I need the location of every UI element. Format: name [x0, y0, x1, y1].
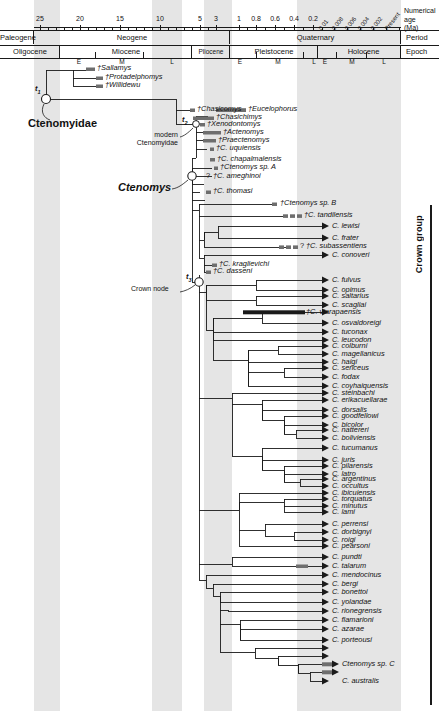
leader-ctenomys-genus [172, 180, 188, 189]
range-bar-subassentiens-2 [286, 245, 291, 249]
range-bar-dasseni [206, 271, 211, 275]
node-label-t2: t2 [182, 115, 188, 126]
tip-label: Ctenomys sp. C [342, 660, 395, 668]
axis-tick-label: 3 [207, 15, 225, 23]
range-bar-chasicomys [190, 109, 195, 113]
taxon-label-ctenomys-sp-a: †Ctenomys sp. A [220, 163, 276, 171]
subepoch-pleistocene-l: L [309, 55, 319, 68]
node-marker-t1 [42, 95, 51, 104]
range-bar-uquiensis [210, 148, 214, 152]
tip-label: C. erikacuellarae [332, 396, 387, 404]
range-bar-subassentiens-3 [293, 245, 298, 249]
tip-label: C. saltarius [332, 292, 369, 300]
tip-label: C. tucumanus [332, 444, 378, 452]
subepoch-divider [256, 52, 257, 59]
subepoch-divider [366, 52, 367, 59]
range-bar-thomasi [206, 191, 211, 195]
subepoch-divider [303, 52, 304, 59]
time-scale-header: Numerical age (Ma) 25 20 15 10 5 3 1 0.8… [0, 0, 439, 57]
figure-root: Numerical age (Ma) 25 20 15 10 5 3 1 0.8… [0, 0, 439, 711]
node-label-t1: t1 [35, 84, 41, 95]
axis-tick-label: 20 [71, 15, 89, 23]
epoch-label: Pliocene [192, 45, 230, 58]
modern-ctenomyidae-label: modern Ctenomyidae [132, 131, 178, 147]
tip-label: C. boliviensis [332, 434, 376, 442]
range-bar-xenodontomys [200, 123, 205, 127]
taxon-label-dasseni: †C. dasseni [213, 267, 252, 275]
period-row-label: Period [406, 31, 428, 44]
node-marker-ctenomys [188, 172, 196, 180]
subepoch-pleistocene-e: E [234, 55, 246, 68]
range-bar-subassentiens [279, 245, 284, 249]
period-label: Quaternary [230, 31, 401, 44]
axis-tick-label: 10 [151, 15, 169, 23]
tip-label: C. sericeus [332, 364, 369, 372]
period-label: Neogene [34, 31, 230, 44]
range-bar-ctenomys-sp-b [272, 203, 277, 207]
tip-label: C. osvaldoreigi [332, 319, 381, 327]
axis-caption: Numerical age (Ma) [404, 7, 439, 33]
taxon-label-willidewu: †Willidewu [105, 81, 140, 89]
tip-label: C. fulvus [332, 276, 361, 284]
taxon-label-ctenomys-sp-b: †Ctenomys sp. B [280, 199, 336, 207]
tip-label: C. conoveri [332, 251, 369, 259]
node-marker-t3-crown [195, 278, 203, 286]
taxon-label-sallamys: †Sallamys [97, 64, 131, 72]
tip-label: C. rionegrensis [332, 607, 382, 615]
axis-tick-label: 0.4 [284, 15, 304, 23]
range-bar-spc [322, 662, 332, 666]
taxon-query-ameghinoi: ? [206, 172, 210, 180]
tip-label: C. lami [332, 508, 355, 516]
tip-label: C. fodax [332, 373, 360, 381]
range-bar-sallamys [86, 68, 95, 72]
tip-label: C. flamarioni [332, 616, 373, 624]
subepoch-holocene-m: M [346, 55, 358, 68]
genus-label-ctenomys: Ctenomys [118, 183, 171, 191]
subepoch-holocene-e: E [320, 55, 330, 68]
range-bar-willidewu [96, 85, 103, 89]
leader-modern-ctenomyidae [180, 128, 193, 137]
axis-tick-label: 0.6 [265, 15, 285, 23]
tip-label: C. porteousi [332, 636, 372, 644]
range-bar-tandilensis-2 [290, 214, 295, 218]
crown-group-label: Crown group [414, 215, 435, 273]
subepoch-divider [95, 52, 96, 59]
epoch-label: Oligocene [0, 45, 60, 58]
tip-label: C. pundti [332, 553, 362, 561]
range-bar-australis [322, 670, 332, 674]
tip-label: C. pearsoni [332, 542, 370, 550]
tip-label: C. australis [342, 677, 379, 685]
period-label: Paleogene [0, 31, 34, 44]
subepoch-miocene-l: L [165, 55, 179, 68]
crown-group-bracket [430, 205, 432, 705]
tip-label: C. goodfellowi [332, 412, 378, 420]
tip-label: †C. viarapaensis [306, 308, 361, 316]
range-bar-ctenomys-sp-a [214, 167, 218, 171]
range-bar-actenomys [203, 131, 221, 135]
leader-crown-node [180, 285, 195, 292]
subepoch-holocene-l: L [378, 55, 390, 68]
tip-label: C. lewisi [332, 222, 360, 230]
range-bar-tandilensis [283, 214, 288, 218]
range-bar-chapalmalensis [210, 158, 215, 162]
range-bar-protadelphomys [96, 77, 103, 81]
crown-node-label: Crown node [131, 285, 169, 293]
tip-label: C. bonettoi [332, 588, 368, 596]
range-bar-praectenomys [203, 139, 216, 143]
subepoch-miocene-e: E [72, 55, 86, 68]
axis-tick-label: 25 [31, 15, 49, 23]
subepoch-divider [143, 52, 144, 59]
range-bar-pundti-talarum [296, 565, 308, 569]
range-bar-tandilensis-3 [297, 214, 302, 218]
subepoch-pleistocene-m: M [272, 55, 284, 68]
taxon-label-subassentiens: †C. subassentiens [306, 242, 367, 250]
taxon-label-uquiensis: †C. uquiensis [216, 144, 261, 152]
axis-tick-label: 15 [111, 15, 129, 23]
family-label-ctenomyidae: Ctenomyidae [28, 119, 97, 127]
taxon-query-subassentiens: ? [300, 242, 304, 250]
taxon-label-eucelophorus: †Eucelophorus [248, 105, 297, 113]
node-label-t3: t3 [186, 272, 192, 283]
epoch-row-label: Epoch [406, 45, 427, 58]
taxon-label-thomasi: †C. thomasi [213, 187, 252, 195]
taxon-label-ameghinoi: †C. ameghinoi [213, 172, 261, 180]
